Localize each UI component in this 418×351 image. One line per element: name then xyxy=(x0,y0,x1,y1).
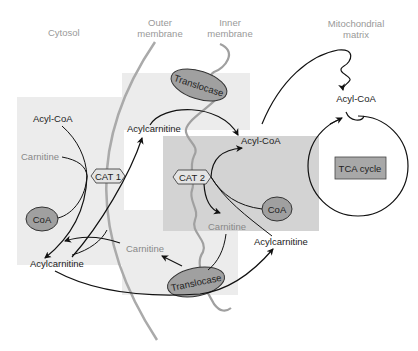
cytosol-label: Cytosol xyxy=(48,27,80,38)
matrix-label-2: matrix xyxy=(343,29,369,40)
outer-membrane-label-1: Outer xyxy=(148,17,172,28)
cytosol-acylcarnitine: Acylcarnitine xyxy=(30,258,84,269)
inner-acyl-coa: Acyl-CoA xyxy=(241,135,281,146)
tca-cycle-label: TCA cycle xyxy=(339,163,382,174)
inner-membrane-label-2: membrane xyxy=(207,28,252,39)
cytosol-carnitine: Carnitine xyxy=(21,151,59,162)
inner-acylcarnitine: Acylcarnitine xyxy=(254,236,308,247)
inner-carnitine: Carnitine xyxy=(208,221,246,232)
ims-carnitine: Carnitine xyxy=(126,243,164,254)
cat1-label: CAT 1 xyxy=(95,171,121,182)
cat2-label: CAT 2 xyxy=(179,172,205,183)
matrix-acyl-coa: Acyl-CoA xyxy=(336,93,376,104)
inner-membrane-label-1: Inner xyxy=(219,17,241,28)
matrix-entry-arrow xyxy=(262,50,351,124)
cytosol-acyl-coa: Acyl-CoA xyxy=(33,113,73,124)
cytosol-coa: CoA xyxy=(33,214,52,225)
outer-membrane-label-2: membrane xyxy=(137,28,182,39)
matrix-label-1: Mitochondrial xyxy=(328,18,385,29)
inner-coa: CoA xyxy=(268,204,287,215)
carnitine-shuttle-diagram: Cytosol Outer membrane Inner membrane Mi… xyxy=(0,0,418,351)
ims-acylcarnitine: Acylcarnitine xyxy=(127,123,181,134)
